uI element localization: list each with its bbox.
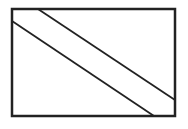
diagram-canvas (0, 0, 188, 129)
outer-rectangle (12, 9, 175, 116)
